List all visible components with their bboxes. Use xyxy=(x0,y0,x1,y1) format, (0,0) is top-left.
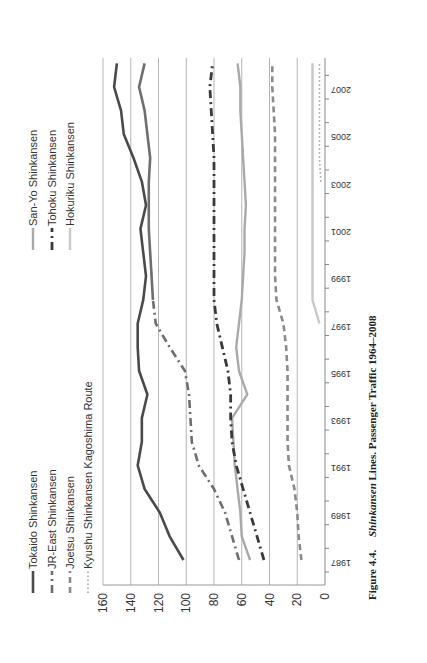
x-tick-label: 2001 xyxy=(331,227,351,237)
x-tick-label: 1997 xyxy=(331,322,351,332)
series-line xyxy=(153,300,239,560)
data-series xyxy=(114,63,321,560)
legend: Tokaido ShinkansenJR-East ShinkansenJoet… xyxy=(27,122,94,593)
gridlines xyxy=(103,58,297,585)
legend-label: Kyushu Shinkansen Kagoshima Route xyxy=(82,381,94,569)
y-tick-label: 60 xyxy=(235,593,249,607)
caption-figure-label: Figure 4.4. xyxy=(366,550,378,600)
legend-label: Tokaido Shinkansen xyxy=(27,471,39,569)
series-line xyxy=(319,63,320,181)
caption-rest: Lines. Passenger Traffic 1964–2008 xyxy=(366,315,378,480)
x-tick-label: 1995 xyxy=(331,369,351,379)
x-tick-label: 1999 xyxy=(331,274,351,284)
x-tick-label: 1993 xyxy=(331,416,351,426)
y-tick-label: 20 xyxy=(290,593,304,607)
caption-italic: Shinkansen xyxy=(366,483,378,537)
y-tick-label: 0 xyxy=(318,593,332,600)
legend-label: Hokuriku Shinkansen xyxy=(64,122,76,226)
y-tick-label: 140 xyxy=(124,593,138,613)
x-tick-label: 1991 xyxy=(331,463,351,473)
figure-caption: Figure 4.4. Shinkansen Lines. Passenger … xyxy=(366,315,378,600)
y-tick-label: 100 xyxy=(179,593,193,613)
x-tick-label: 2007 xyxy=(331,85,351,95)
y-tick-label: 160 xyxy=(96,593,110,613)
legend-label: San-Yo Shinkansen xyxy=(27,130,39,226)
x-tick-label: 2005 xyxy=(331,132,351,142)
y-tick-label: 40 xyxy=(263,593,277,607)
legend-label: Tohoku Shinkansen xyxy=(46,130,58,226)
legend-label: Joetsu Shinkansen xyxy=(64,476,76,569)
x-tick-label: 1987 xyxy=(331,558,351,568)
y-tick-label: 80 xyxy=(207,593,221,607)
y-tick-label: 120 xyxy=(152,593,166,613)
x-tick-label: 1989 xyxy=(331,511,351,521)
x-tick-label: 2003 xyxy=(331,180,351,190)
line-chart: 0204060801001201401601987198919911993199… xyxy=(0,0,427,663)
series-line xyxy=(313,63,320,323)
legend-label: JR-East Shinkansen xyxy=(46,469,58,569)
